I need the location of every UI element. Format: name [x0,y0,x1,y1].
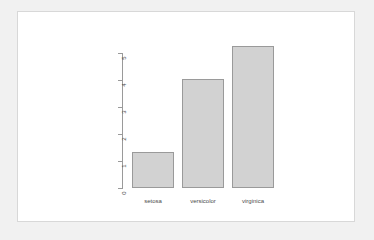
bar-setosa [132,152,174,188]
y-tick-label: 0 [121,188,127,198]
y-tick-label: 1 [121,161,127,171]
bar-virginica [232,46,274,188]
bar-versicolor [182,79,224,188]
y-tick-label: 3 [121,107,127,117]
x-tick-label-virginica: virginica [218,198,288,205]
y-tick-label: 5 [121,53,127,63]
plot-area: 012345 setosaversicolorvirginica [18,12,354,221]
plot-panel: 012345 setosaversicolorvirginica [17,11,355,222]
screenshot-root: 012345 setosaversicolorvirginica [0,0,374,240]
y-tick-label: 2 [121,134,127,144]
y-tick-label: 4 [121,80,127,90]
